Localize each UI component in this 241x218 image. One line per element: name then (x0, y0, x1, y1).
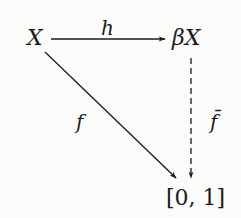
node-unit-interval: [0, 1] (166, 187, 225, 209)
node-x: X (27, 27, 43, 49)
arrow-f (45, 52, 176, 178)
edge-label-f: f (76, 112, 83, 132)
node-beta-x: βX (172, 27, 200, 49)
edge-label-h: h (101, 18, 114, 38)
edge-label-fbar: f̄ (210, 112, 217, 132)
